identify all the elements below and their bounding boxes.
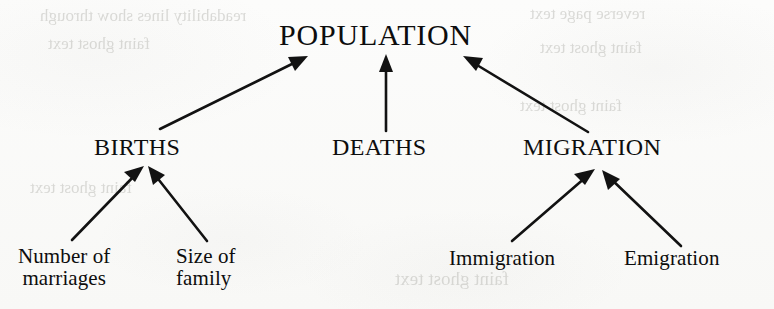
- arrow-family-to-births: [148, 166, 207, 241]
- arrow-immigration-to-migration: [512, 169, 595, 241]
- arrow-marriages-to-births: [72, 166, 144, 240]
- showthrough-text-mid-left: faint ghost text: [48, 34, 150, 54]
- node-births: BIRTHS: [94, 135, 180, 160]
- diagram-page: readability lines show through reverse p…: [0, 0, 774, 309]
- node-immigration: Immigration: [449, 247, 555, 269]
- arrow-deaths-to-population: [379, 54, 393, 131]
- showthrough-text-top-left: readability lines show through: [40, 6, 246, 26]
- node-number-of-marriages-line1: Number of: [18, 245, 110, 267]
- arrow-migration-to-population: [463, 56, 588, 132]
- node-size-of-family-line1: Size of: [176, 245, 236, 267]
- arrow-births-to-population: [160, 56, 308, 129]
- node-migration: MIGRATION: [523, 135, 661, 160]
- showthrough-text-top-right: reverse page text: [530, 4, 645, 24]
- showthrough-text-low-left: faint ghost text: [30, 178, 132, 198]
- node-size-of-family-line2: family: [176, 267, 236, 289]
- node-size-of-family: Size of family: [176, 245, 236, 290]
- showthrough-text-low-right: faint ghost text: [520, 96, 622, 116]
- node-population: POPULATION: [279, 19, 472, 51]
- showthrough-text-mid-right: faint ghost text: [540, 38, 642, 58]
- node-number-of-marriages: Number of marriages: [18, 245, 110, 290]
- arrow-emigration-to-migration: [602, 170, 681, 246]
- node-emigration: Emigration: [624, 247, 719, 269]
- node-number-of-marriages-line2: marriages: [18, 267, 110, 289]
- showthrough-text-bottom: faint ghost text: [395, 268, 509, 290]
- node-deaths: DEATHS: [332, 135, 426, 160]
